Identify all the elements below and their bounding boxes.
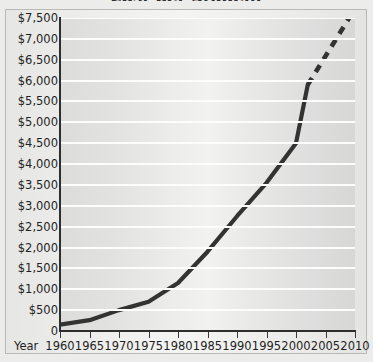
y-tick-label: $5,000	[2, 116, 58, 128]
x-tick-mark	[60, 332, 61, 338]
x-tick-mark	[326, 332, 327, 338]
y-tick-label: $4,500	[2, 137, 58, 149]
y-tick-label: $2,000	[2, 242, 58, 254]
y-tick-label: $7,000	[2, 33, 58, 45]
y-tick-label: $4,000	[2, 158, 58, 170]
gridline	[60, 205, 355, 207]
y-tick-label: $5,500	[2, 95, 58, 107]
x-tick-mark	[296, 332, 297, 338]
x-tick-mark	[355, 332, 356, 338]
x-tick-mark	[178, 332, 179, 338]
x-tick-mark	[90, 332, 91, 338]
gridline	[60, 309, 355, 311]
x-tick-mark	[267, 332, 268, 338]
x-axis-title: Year	[14, 339, 38, 353]
x-tick-label: 2010	[338, 339, 372, 353]
y-tick-label: $3,500	[2, 179, 58, 191]
gridline	[60, 142, 355, 144]
y-tick-label: 0	[2, 325, 58, 337]
gridline	[60, 121, 355, 123]
x-tick-mark	[149, 332, 150, 338]
y-tick-label: $1,500	[2, 262, 58, 274]
gridline	[60, 38, 355, 40]
chart-figure: Cost per Student 0$500$1,000$1,500$2,000…	[0, 0, 373, 362]
x-tick-mark	[208, 332, 209, 338]
gridline	[60, 288, 355, 290]
gridline	[60, 18, 355, 19]
y-tick-label: $7,500	[2, 12, 58, 24]
gridline	[60, 247, 355, 249]
plot-area	[60, 18, 355, 331]
y-tick-label: $3,000	[2, 200, 58, 212]
y-tick-label: $500	[2, 304, 58, 316]
gridline	[60, 184, 355, 186]
gridline	[60, 267, 355, 269]
y-tick-label: $2,500	[2, 221, 58, 233]
y-tick-label: $1,000	[2, 283, 58, 295]
gridline	[60, 80, 355, 82]
gridline	[60, 163, 355, 165]
gridline	[60, 59, 355, 61]
gridline	[60, 226, 355, 228]
data-series-layer	[60, 18, 355, 331]
x-tick-mark	[237, 332, 238, 338]
x-tick-mark	[119, 332, 120, 338]
line-series-projected	[308, 18, 349, 85]
y-axis-line	[59, 17, 61, 332]
gridline	[60, 100, 355, 102]
y-tick-label: $6,000	[2, 75, 58, 87]
y-tick-label: $6,500	[2, 54, 58, 66]
y-axis-tick-labels: 0$500$1,000$1,500$2,000$2,500$3,000$3,50…	[0, 0, 58, 362]
